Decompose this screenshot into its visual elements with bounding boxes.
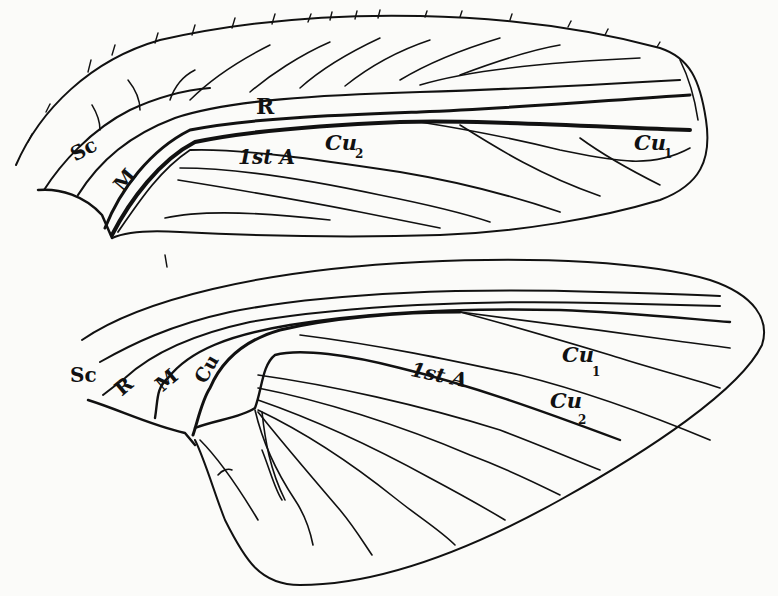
wing-venation-diagram: Sc R M Cu 2 1st A Cu 1 xyxy=(0,0,778,596)
forewing-costal-bristles xyxy=(28,10,660,142)
forewing: Sc R M Cu 2 1st A Cu 1 xyxy=(16,10,707,238)
forewing-label-r: R xyxy=(256,93,275,119)
forewing-vein-1st-a xyxy=(118,150,560,232)
hindwing-base xyxy=(88,400,195,445)
hindwing-bristle xyxy=(165,255,167,267)
forewing-vein-cu xyxy=(112,122,690,235)
forewing-label-sc: Sc xyxy=(66,132,101,166)
forewing-label-cu1: Cu xyxy=(634,130,666,155)
hindwing-label-r: R xyxy=(110,371,138,400)
forewing-label-cu1-subscript: 1 xyxy=(664,147,672,161)
hindwing: Sc R M Cu Cu 1 1st A Cu 2 xyxy=(70,255,764,585)
hindwing-label-cu2: Cu xyxy=(550,388,582,413)
forewing-radial-branches xyxy=(92,38,640,130)
hindwing-anal-veins xyxy=(200,375,600,555)
forewing-label-cu2-subscript: 2 xyxy=(355,147,363,161)
hindwing-vein-sc xyxy=(100,291,720,362)
forewing-base xyxy=(38,190,112,238)
hindwing-cu-branches xyxy=(300,312,730,440)
forewing-label-m: M xyxy=(108,164,141,196)
hindwing-label-cu1: Cu xyxy=(562,342,594,367)
forewing-label-cu2: Cu xyxy=(325,130,357,155)
forewing-vein-m xyxy=(105,95,690,228)
forewing-label-1st-a: 1st A xyxy=(238,145,295,169)
forewing-vein-r xyxy=(78,80,680,195)
hindwing-label-sc: Sc xyxy=(70,363,97,387)
hindwing-label-cu2-subscript: 2 xyxy=(578,413,586,427)
forewing-anal-veins xyxy=(165,168,490,228)
hindwing-margin xyxy=(82,260,764,585)
hindwing-label-cu1-subscript: 1 xyxy=(592,365,600,379)
